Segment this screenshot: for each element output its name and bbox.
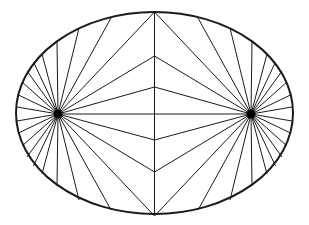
ray-line (58, 114, 155, 172)
ray-line (57, 42, 58, 114)
ray-line (27, 71, 58, 114)
ray-line (251, 114, 282, 157)
ray-line (155, 56, 252, 114)
ray-line (251, 114, 291, 133)
ray-line (19, 95, 59, 114)
ray-line (251, 42, 252, 114)
ray-line (251, 95, 291, 114)
ray-line (58, 28, 79, 114)
ray-line (155, 87, 252, 114)
diagram-canvas (0, 0, 309, 225)
ray-line (58, 56, 155, 114)
ray-line (230, 28, 251, 114)
ellipse-foci-diagram (0, 0, 309, 225)
ray-line (27, 114, 58, 157)
ray-line (155, 114, 252, 140)
ray-line (58, 87, 155, 114)
focus-right-dot (247, 110, 256, 119)
ray-line (155, 114, 252, 172)
focus-left-dot (54, 110, 63, 119)
ray-line (251, 71, 282, 114)
ray-line (57, 114, 58, 186)
ray-line (251, 114, 252, 186)
ray-line (58, 114, 155, 140)
ray-line (19, 114, 59, 133)
